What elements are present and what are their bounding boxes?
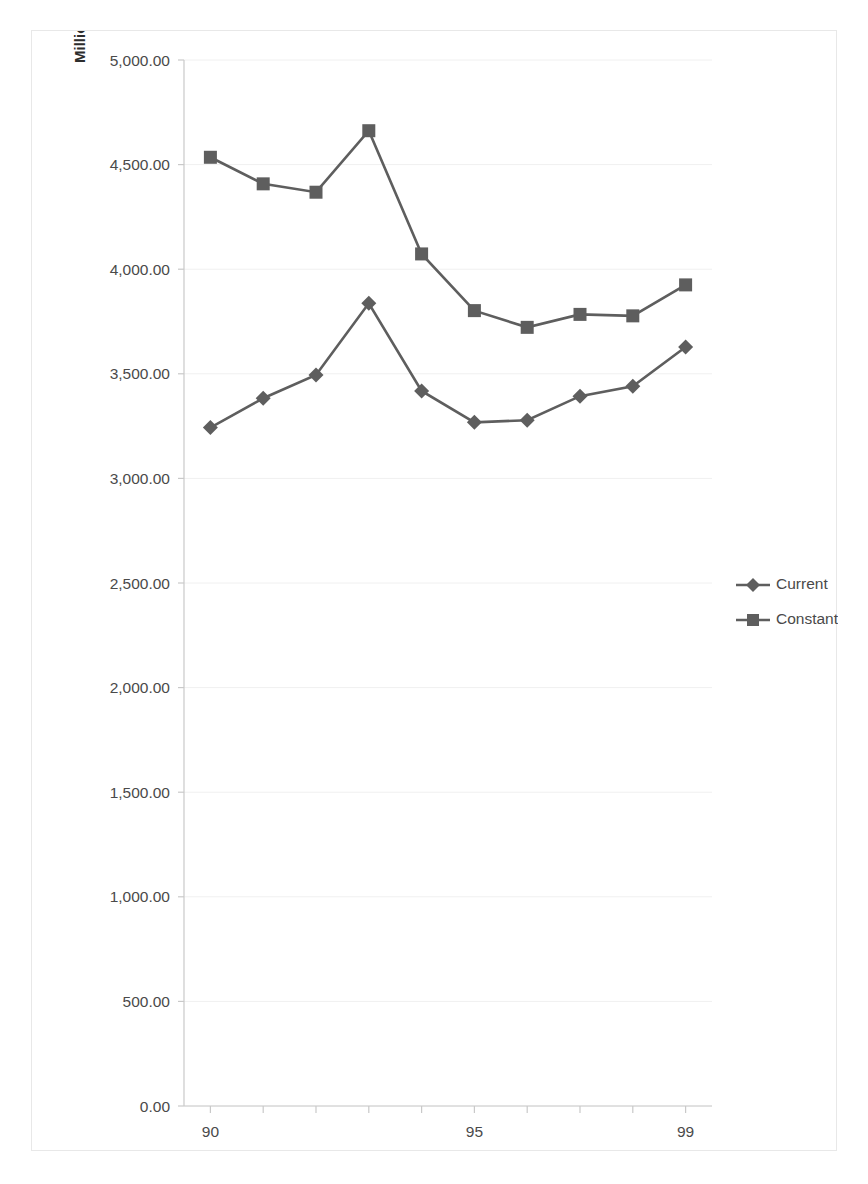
- x-axis-tick-label: 99: [677, 1123, 694, 1140]
- x-axis-tick-label: 90: [202, 1123, 220, 1140]
- y-axis-tick-label: 4,500.00: [110, 156, 171, 173]
- legend-item-constant[interactable]: Constant: [736, 610, 838, 627]
- chart-frame: 0.00500.001,000.001,500.002,000.002,500.…: [31, 30, 837, 1151]
- gridlines-group: [184, 60, 712, 1106]
- y-axis-tick-labels: 0.00500.001,000.001,500.002,000.002,500.…: [110, 52, 171, 1115]
- series-line: [210, 303, 685, 427]
- data-point-marker-diamond: [746, 578, 760, 592]
- data-point-marker-square: [204, 151, 217, 164]
- series-constant: [204, 124, 692, 334]
- data-point-marker-square: [574, 308, 587, 321]
- data-point-marker-square: [521, 321, 534, 334]
- data-point-marker-diamond: [414, 383, 429, 398]
- line-chart: 0.00500.001,000.001,500.002,000.002,500.…: [32, 31, 838, 1152]
- y-axis-title: Millions: [71, 31, 88, 63]
- x-tick-marks-group: [210, 1106, 685, 1113]
- data-point-marker-square: [468, 304, 481, 317]
- legend-item-current[interactable]: Current: [736, 575, 828, 592]
- data-point-marker-square: [257, 177, 270, 190]
- legend-label: Constant: [776, 610, 838, 627]
- data-point-marker-diamond: [256, 391, 271, 406]
- y-axis-tick-label: 3,000.00: [110, 470, 171, 487]
- y-axis-tick-label: 1,500.00: [110, 784, 171, 801]
- x-axis-tick-label: 95: [466, 1123, 483, 1140]
- chart-legend: CurrentConstant: [736, 575, 838, 627]
- y-axis-tick-label: 4,000.00: [110, 261, 171, 278]
- y-axis-tick-label: 1,000.00: [110, 888, 171, 905]
- y-axis-tick-label: 2,500.00: [110, 575, 171, 592]
- data-point-marker-square: [362, 124, 375, 137]
- series-line: [210, 131, 685, 328]
- data-point-marker-square: [679, 278, 692, 291]
- y-axis-tick-label: 0.00: [140, 1098, 171, 1115]
- data-point-marker-square: [626, 309, 639, 322]
- data-point-marker-diamond: [467, 415, 482, 430]
- y-axis-tick-label: 500.00: [123, 993, 171, 1010]
- y-axis-tick-label: 2,000.00: [110, 679, 171, 696]
- data-point-marker-diamond: [573, 389, 588, 404]
- data-point-marker-square: [415, 247, 428, 260]
- y-axis-tick-label: 5,000.00: [110, 52, 171, 69]
- data-point-marker-square: [747, 614, 759, 626]
- x-axis-tick-labels: 909599: [202, 1123, 694, 1140]
- legend-label: Current: [776, 575, 828, 592]
- y-axis-tick-label: 3,500.00: [110, 365, 171, 382]
- y-tick-marks-group: [178, 60, 184, 1106]
- data-point-marker-diamond: [203, 420, 218, 435]
- data-point-marker-diamond: [520, 413, 535, 428]
- data-point-marker-square: [310, 186, 323, 199]
- data-series-group: [203, 124, 693, 435]
